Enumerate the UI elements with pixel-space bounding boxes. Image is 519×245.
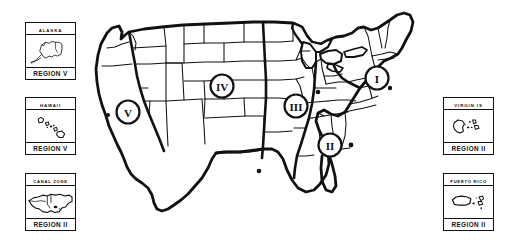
hawaii-islands-icon <box>26 110 75 142</box>
region-marker-iii-label: III <box>290 101 303 113</box>
region-marker-ii: II <box>319 134 342 157</box>
inset-map-canal-zone <box>26 185 75 219</box>
inset-map-alaska <box>26 34 75 68</box>
us-national-outline <box>96 13 413 211</box>
inset-region-alaska: REGION V <box>26 68 75 79</box>
region-marker-iii: III <box>285 95 308 118</box>
inset-title-alaska: ALASKA <box>26 23 75 34</box>
region-marker-i: I <box>366 67 389 90</box>
region-marker-iv: IV <box>211 75 234 98</box>
inset-region-puerto-rico: REGION II <box>444 219 493 230</box>
inset-title-hawaii: HAWAII <box>26 98 75 109</box>
alaska-outline-icon <box>26 35 75 67</box>
inset-region-canal-zone: REGION II <box>26 219 75 230</box>
region-map-figure: ALASKA REGION V HAWAII <box>0 0 519 245</box>
inset-panel-alaska: ALASKA REGION V <box>25 22 76 80</box>
region-marker-ii-label: II <box>326 140 335 152</box>
inset-panel-canal-zone: CANAL ZONE REGION II <box>25 173 76 231</box>
inset-map-puerto-rico <box>444 185 493 219</box>
inset-region-virgin-islands: REGION II <box>444 143 493 154</box>
inset-map-virgin-islands <box>444 109 493 143</box>
city-dot <box>316 90 321 95</box>
city-dot <box>257 169 262 174</box>
region-marker-iv-label: IV <box>216 81 228 93</box>
canal-zone-outline-icon <box>26 186 75 218</box>
city-dot <box>388 86 392 90</box>
inset-panel-puerto-rico: PUERTO RICO REGION II <box>443 173 494 231</box>
inset-panel-virgin-islands: VIRGIN IS REGION II <box>443 97 494 155</box>
inset-title-virgin-islands: VIRGIN IS <box>444 98 493 109</box>
region-marker-i-label: I <box>375 73 379 85</box>
main-map-united-states: I II III IV V <box>88 6 436 239</box>
puerto-rico-islands-icon <box>444 186 493 218</box>
region-marker-v-label: V <box>124 107 132 119</box>
region-marker-v: V <box>117 101 140 124</box>
inset-panel-hawaii: HAWAII REGION V <box>25 97 76 155</box>
inset-title-puerto-rico: PUERTO RICO <box>444 174 493 185</box>
inset-map-hawaii <box>26 109 75 143</box>
virgin-islands-icon <box>444 110 493 142</box>
inset-region-hawaii: REGION V <box>26 143 75 154</box>
city-dot <box>349 143 354 148</box>
us-map-svg: I II III IV V <box>88 6 436 239</box>
city-dot <box>106 113 110 117</box>
inset-title-canal-zone: CANAL ZONE <box>26 174 75 185</box>
